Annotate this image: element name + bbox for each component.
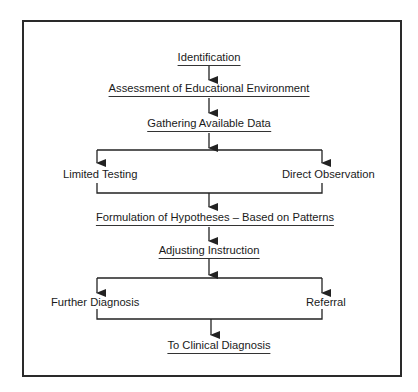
node-formulation: Formulation of Hypotheses – Based on Pat… (96, 211, 334, 226)
merge-line-2 (97, 309, 322, 319)
node-limited-testing: Limited Testing (63, 168, 137, 181)
merge-line-1 (97, 183, 322, 193)
node-clinical-diagnosis: To Clinical Diagnosis (167, 339, 270, 354)
node-assessment: Assessment of Educational Environment (109, 82, 310, 97)
node-referral: Referral (306, 296, 346, 309)
node-direct-observation: Direct Observation (282, 168, 375, 181)
node-gathering: Gathering Available Data (147, 117, 271, 132)
node-further-diagnosis: Further Diagnosis (51, 296, 139, 309)
node-identification: Identification (178, 51, 241, 66)
node-adjusting: Adjusting Instruction (159, 244, 260, 259)
